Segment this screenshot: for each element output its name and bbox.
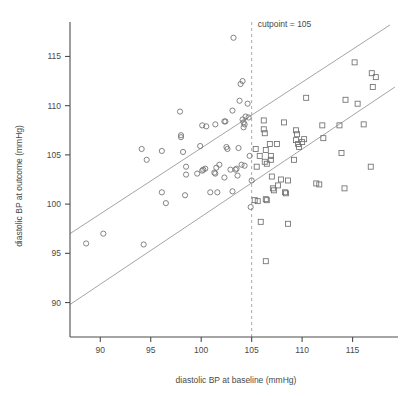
data-point-square xyxy=(302,137,307,142)
data-point-square xyxy=(253,146,258,151)
x-tick-label: 105 xyxy=(245,345,259,355)
y-tick-label: 100 xyxy=(47,199,61,209)
plot-canvas: 9095100105110115 9095100105110115 cutpoi… xyxy=(0,0,405,396)
y-tick-label: 105 xyxy=(47,150,61,160)
data-point-square xyxy=(368,164,373,169)
data-point-circle xyxy=(159,148,164,153)
data-point-square xyxy=(285,178,290,183)
data-point-square xyxy=(342,186,347,191)
y-axis-ticks-group: 9095100105110115 xyxy=(47,51,70,307)
data-point-square xyxy=(355,101,360,106)
data-point-circle xyxy=(231,35,236,40)
data-point-square xyxy=(352,60,357,65)
data-point-square xyxy=(269,174,274,179)
y-tick-label: 95 xyxy=(52,248,62,258)
data-point-square xyxy=(320,123,325,128)
series-squares-group xyxy=(252,60,378,264)
data-point-circle xyxy=(241,125,246,130)
data-point-square xyxy=(370,84,375,89)
data-point-square xyxy=(267,142,272,147)
data-point-square xyxy=(274,142,279,147)
x-tick-label: 90 xyxy=(96,345,106,355)
data-point-circle xyxy=(198,143,203,148)
data-point-square xyxy=(343,97,348,102)
data-point-square xyxy=(254,164,259,169)
x-tick-label: 95 xyxy=(146,345,156,355)
data-point-circle xyxy=(243,114,248,119)
data-point-square xyxy=(304,95,309,100)
data-point-circle xyxy=(101,231,106,236)
data-point-circle xyxy=(195,171,200,176)
data-point-circle xyxy=(159,190,164,195)
y-axis-title: diastolic BP at outcome (mmHg) xyxy=(14,125,24,247)
data-point-circle xyxy=(242,163,247,168)
data-point-circle xyxy=(237,98,242,103)
data-point-circle xyxy=(182,193,187,198)
data-point-circle xyxy=(84,241,89,246)
data-point-circle xyxy=(217,162,222,167)
data-point-square xyxy=(263,259,268,264)
cutpoint-label: cutpoint = 105 xyxy=(258,19,312,29)
data-point-square xyxy=(275,183,280,188)
data-point-circle xyxy=(208,190,213,195)
data-point-circle xyxy=(177,109,182,114)
data-point-square xyxy=(361,122,366,127)
series-circles-group xyxy=(84,35,255,247)
data-point-circle xyxy=(235,173,240,178)
data-point-square xyxy=(258,219,263,224)
y-tick-label: 115 xyxy=(47,51,61,61)
data-point-circle xyxy=(141,242,146,247)
data-point-square xyxy=(339,150,344,155)
data-point-square xyxy=(281,120,286,125)
data-point-square xyxy=(263,147,268,152)
y-tick-label: 90 xyxy=(52,298,62,308)
x-tick-label: 100 xyxy=(194,345,208,355)
data-point-circle xyxy=(214,165,219,170)
x-tick-label: 110 xyxy=(295,345,309,355)
x-tick-label: 115 xyxy=(346,345,360,355)
data-point-square xyxy=(278,177,283,182)
data-point-square xyxy=(262,159,267,164)
scatter-plot-figure: 9095100105110115 9095100105110115 cutpoi… xyxy=(0,0,405,396)
lower-fit-line xyxy=(70,87,395,305)
data-point-circle xyxy=(144,157,149,162)
data-point-square xyxy=(292,157,297,162)
data-point-circle xyxy=(230,108,235,113)
data-point-circle xyxy=(248,204,253,209)
x-axis-title: diastolic BP at baseline (mmHg) xyxy=(176,375,297,385)
data-point-circle xyxy=(163,201,168,206)
data-point-circle xyxy=(228,167,233,172)
y-tick-label: 110 xyxy=(47,101,61,111)
data-point-circle xyxy=(222,175,227,180)
axes-group xyxy=(70,22,398,337)
data-point-circle xyxy=(236,145,241,150)
data-point-circle xyxy=(230,189,235,194)
data-point-circle xyxy=(215,190,220,195)
annotations-group: cutpoint = 105 xyxy=(258,19,312,29)
data-point-circle xyxy=(213,122,218,127)
data-point-circle xyxy=(183,172,188,177)
data-point-square xyxy=(261,118,266,123)
data-point-square xyxy=(285,221,290,226)
x-axis-ticks-group: 9095100105110115 xyxy=(96,337,360,355)
data-point-circle xyxy=(139,146,144,151)
data-point-circle xyxy=(183,164,188,169)
data-point-circle xyxy=(239,162,244,167)
data-point-circle xyxy=(245,101,250,106)
data-point-square xyxy=(257,153,262,158)
upper-fit-line xyxy=(70,25,390,234)
data-point-circle xyxy=(180,149,185,154)
fit-lines-group xyxy=(70,25,395,305)
